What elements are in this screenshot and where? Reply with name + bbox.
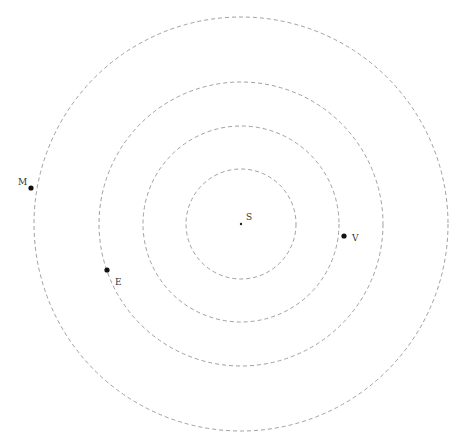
planet-e: E	[104, 267, 121, 287]
planet-v-label: V	[351, 233, 359, 243]
planet-m: M	[18, 177, 34, 191]
planet-v: V	[341, 233, 359, 243]
sun-label: S	[246, 212, 252, 222]
orbit-diagram: S V E M	[0, 0, 473, 445]
planet-v-dot	[341, 233, 346, 238]
planet-e-label: E	[115, 277, 122, 287]
planet-e-dot	[104, 267, 109, 272]
planet-m-dot	[28, 185, 33, 190]
planet-m-label: M	[18, 177, 27, 187]
sun: S	[240, 212, 252, 225]
sun-dot	[240, 223, 242, 225]
